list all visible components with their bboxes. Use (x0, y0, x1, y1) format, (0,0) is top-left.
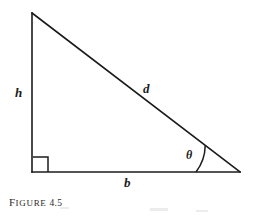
label-base-b: b (124, 176, 131, 189)
label-hypotenuse-d: d (143, 82, 150, 95)
caption-word: IGURE (16, 198, 47, 208)
figure-container: h d b θ FIGURE4.5 (0, 0, 255, 217)
right-angle-square-icon (33, 157, 48, 172)
figure-caption: FIGURE4.5 (9, 192, 62, 210)
label-height-h: h (15, 86, 22, 99)
label-angle-theta: θ (186, 149, 192, 161)
theta-arc-icon (196, 146, 205, 172)
triangle-side-hypotenuse (32, 13, 240, 172)
caption-number: 4.5 (50, 198, 63, 208)
